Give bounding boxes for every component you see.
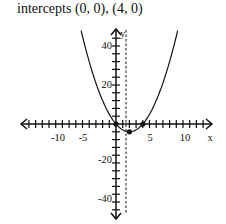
- x-axis-label: x: [207, 132, 213, 143]
- vertex-point: [127, 129, 132, 134]
- graph-canvas: -10 -5 5 10 x y 40 20 -20 -40: [0, 0, 226, 224]
- y-tick-label: -20: [98, 154, 112, 165]
- y-tick-label: 40: [102, 40, 113, 51]
- x-intercept-point: [140, 121, 145, 126]
- x-intercept-point: [113, 121, 118, 126]
- y-axis-label: y: [120, 28, 126, 39]
- x-tick-label: 10: [180, 132, 191, 143]
- x-tick-label: -10: [51, 132, 65, 143]
- y-tick-label: 20: [102, 79, 113, 90]
- x-tick-label: 5: [147, 132, 152, 143]
- y-tick-label: -40: [98, 193, 112, 204]
- parabola-curve: [81, 31, 177, 132]
- x-tick-label: -5: [79, 132, 88, 143]
